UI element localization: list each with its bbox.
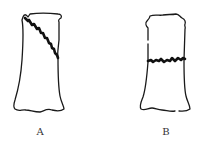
panel-label-b: B xyxy=(162,126,169,137)
panel-a: A xyxy=(14,13,64,137)
fracture-diagram: A B xyxy=(0,0,200,147)
fracture-line-b xyxy=(148,58,185,62)
fracture-line-a xyxy=(25,18,58,58)
panel-label-a: A xyxy=(35,126,44,137)
panel-b: B xyxy=(140,14,190,137)
